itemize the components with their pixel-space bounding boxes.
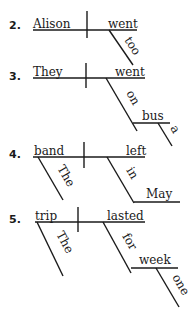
object-word: May — [146, 187, 172, 201]
diagram-2: 2. Alison went too — [9, 11, 144, 65]
diagram-number: 2. — [9, 19, 21, 32]
diagram-number: 3. — [9, 70, 21, 83]
preposition-word: in — [123, 165, 141, 182]
subject-word: trip — [35, 209, 57, 223]
diagram-5: 5. trip lasted The for week one — [9, 207, 190, 307]
diagram-4: 4. band left The in May — [9, 142, 180, 203]
verb-word: went — [115, 65, 145, 79]
adjective-word: one — [169, 272, 190, 298]
object-word: week — [139, 253, 171, 267]
article-slant-line — [37, 222, 63, 276]
sentence-diagrams: 2. Alison went too 3. They went on bus — [0, 0, 190, 319]
article-slant-line — [158, 123, 172, 146]
subject-word: band — [34, 144, 65, 158]
verb-word: went — [108, 17, 138, 31]
subject-word: They — [33, 65, 63, 79]
article-slant-line — [38, 157, 63, 200]
diagram-3: 3. They went on bus a — [9, 63, 183, 146]
article-word: a — [167, 123, 183, 136]
preposition-word: on — [123, 88, 143, 108]
article-word: The — [53, 229, 76, 256]
object-word: bus — [142, 109, 164, 123]
verb-word: left — [126, 144, 146, 158]
verb-word: lasted — [107, 209, 144, 223]
diagram-number: 5. — [9, 213, 21, 226]
diagram-number: 4. — [9, 148, 21, 161]
preposition-word: for — [119, 231, 140, 253]
article-word: The — [54, 163, 78, 190]
subject-word: Alison — [32, 17, 71, 31]
